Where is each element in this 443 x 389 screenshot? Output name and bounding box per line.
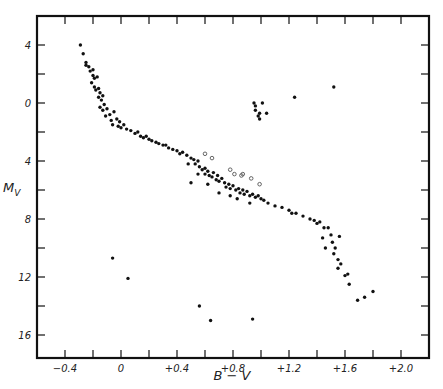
y-tick-label: 4 (25, 156, 31, 167)
star-marker (254, 104, 257, 107)
star-marker (171, 148, 174, 151)
open-star-marker (249, 177, 253, 181)
star-marker (265, 112, 268, 115)
star-marker (227, 183, 230, 186)
y-tick-label: 16 (18, 330, 31, 341)
star-marker (273, 204, 276, 207)
star-marker (198, 165, 201, 168)
star-marker (308, 217, 311, 220)
star-marker (103, 103, 106, 106)
star-marker (280, 206, 283, 209)
star-marker (97, 87, 100, 90)
star-marker (371, 290, 374, 293)
star-marker (217, 191, 220, 194)
star-marker (167, 146, 170, 149)
star-marker (356, 299, 359, 302)
star-marker (327, 226, 330, 229)
star-marker (111, 123, 114, 126)
star-marker (93, 85, 96, 88)
star-marker (96, 75, 99, 78)
star-marker (194, 162, 197, 165)
star-marker (164, 143, 167, 146)
star-marker (262, 199, 265, 202)
y-tick-label: 8 (25, 214, 31, 225)
star-marker (348, 283, 351, 286)
star-marker (115, 117, 118, 120)
star-marker (329, 233, 332, 236)
star-marker (336, 267, 339, 270)
star-marker (79, 43, 82, 46)
star-marker (338, 235, 341, 238)
star-marker (220, 177, 223, 180)
star-marker (216, 174, 219, 177)
data-points (79, 43, 375, 322)
star-marker (332, 85, 335, 88)
star-marker (192, 158, 195, 161)
hr-diagram: −0.40+0.4+0.8+1.2+1.6+2.0 40481216 B − V… (0, 0, 443, 389)
star-marker (324, 246, 327, 249)
star-marker (126, 277, 129, 280)
star-marker (105, 107, 108, 110)
y-axis-title-sub: V (14, 188, 21, 198)
star-marker (313, 219, 316, 222)
star-marker (336, 258, 339, 261)
star-marker (125, 127, 128, 130)
star-marker (229, 187, 232, 190)
open-star-marker (210, 156, 214, 160)
star-marker (98, 106, 101, 109)
star-marker (334, 246, 337, 249)
star-marker (87, 65, 90, 68)
star-marker (266, 201, 269, 204)
star-marker (332, 252, 335, 255)
star-marker (251, 317, 254, 320)
star-marker (189, 181, 192, 184)
star-marker (294, 212, 297, 215)
x-axis-title: B − V (214, 368, 252, 383)
star-marker (258, 117, 261, 120)
star-marker (339, 262, 342, 265)
star-marker (187, 162, 190, 165)
star-marker (206, 170, 209, 173)
x-axis-ticks: −0.40+0.4+0.8+1.2+1.6+2.0 (53, 16, 413, 374)
star-marker (231, 184, 234, 187)
y-tick-label: 12 (18, 272, 31, 283)
y-axis-title-main: M (3, 180, 14, 195)
y-tick-label: 0 (25, 98, 31, 109)
star-marker (257, 114, 260, 117)
star-marker (363, 296, 366, 299)
star-marker (293, 96, 296, 99)
star-marker (318, 220, 321, 223)
star-marker (301, 214, 304, 217)
star-marker (257, 194, 260, 197)
open-star-marker (203, 152, 207, 156)
star-marker (118, 120, 121, 123)
star-marker (252, 101, 255, 104)
star-marker (110, 119, 113, 122)
star-marker (346, 272, 349, 275)
star-marker (198, 304, 201, 307)
star-marker (129, 129, 132, 132)
star-marker (185, 154, 188, 157)
star-marker (91, 68, 94, 71)
x-tick-label: −0.4 (53, 363, 77, 374)
star-marker (241, 188, 244, 191)
y-axis-ticks: 40481216 (18, 40, 429, 341)
star-marker (224, 185, 227, 188)
star-marker (145, 135, 148, 138)
star-marker (212, 171, 215, 174)
star-marker (175, 149, 178, 152)
star-marker (100, 98, 103, 101)
star-marker (150, 139, 153, 142)
star-marker (181, 151, 184, 154)
star-marker (101, 94, 104, 97)
star-marker (322, 226, 325, 229)
star-marker (248, 201, 251, 204)
star-marker (104, 114, 107, 117)
star-marker (290, 212, 293, 215)
star-marker (209, 319, 212, 322)
star-marker (243, 193, 246, 196)
star-marker (251, 193, 254, 196)
star-marker (203, 167, 206, 170)
star-marker (229, 194, 232, 197)
star-marker (157, 142, 160, 145)
